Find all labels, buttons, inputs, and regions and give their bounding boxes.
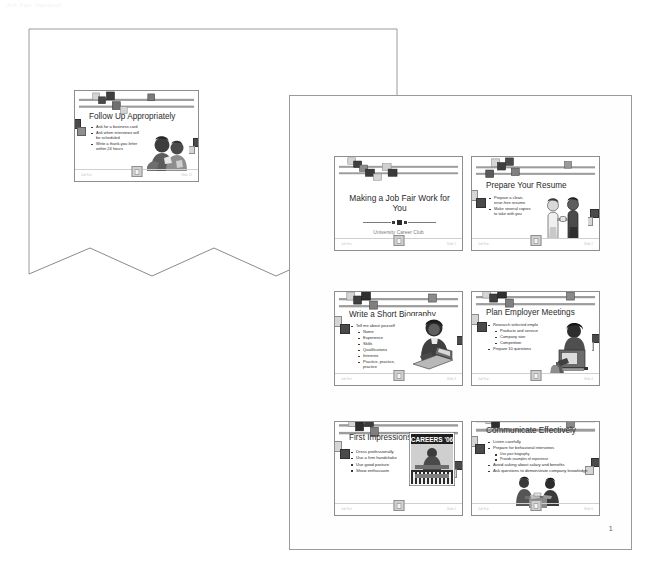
slide-number-badge (530, 370, 541, 381)
slide-thumbnail[interactable]: Making a Job Fair Work for You Universit… (334, 156, 463, 251)
bullet-item: Dress professionally (351, 449, 409, 454)
slide-bullets: Tell me about yourself Name Experience S… (351, 323, 407, 370)
bullet-item: Skills (358, 341, 407, 346)
slide-number-badge (131, 166, 142, 177)
slide-footer: Job Fair Slide 5 (335, 503, 462, 515)
clipart-woman-at-laptop (407, 316, 457, 372)
slide-decoration (75, 91, 198, 114)
bullet-item: Tell me about yourself (351, 323, 407, 328)
slide-thumbnail[interactable]: Write a Short Biography Tell me about yo… (334, 291, 463, 386)
bullet-item: Experience (358, 335, 407, 340)
svg-text:CAREERS '06: CAREERS '06 (411, 436, 454, 443)
footer-right-text: Slide 12 (181, 173, 192, 177)
slide-footer: Job Fair Slide 4 (472, 373, 599, 385)
bullet-item: Make several copies to take with you (489, 206, 533, 216)
front-handout-page: Making a Job Fair Work for You Universit… (289, 95, 632, 550)
footer-left-text: Job Fair (478, 507, 489, 511)
bullet-item: Use a firm handshake (351, 455, 409, 460)
footer-right-text: Slide 6 (584, 507, 593, 511)
slide-thumbnail[interactable]: Follow Up Appropriately Ask for a busine… (74, 90, 199, 182)
slide-footer: Job Fair Slide 1 (335, 238, 462, 250)
slide-title: Communicate Effectively (486, 426, 576, 435)
footer-right-text: Slide 3 (447, 377, 456, 381)
page-number: 1 (609, 524, 613, 533)
slide-bullets: Ask for a business card Ask when intervi… (91, 124, 143, 152)
bullet-item: Prepare a clean, error-free resume (489, 195, 533, 205)
bullet-item: Use good posture (351, 462, 409, 467)
bullet-item: Interests (358, 353, 407, 358)
footer-left-text: Job Fair (341, 377, 352, 381)
clipart-handshake-two-people (536, 189, 588, 239)
bullet-item: Avoid asking about salary and benefits (488, 462, 588, 467)
decorative-square (476, 198, 486, 208)
bullet-item: Provide examples of experience (495, 457, 588, 461)
slide-title: Follow Up Appropriately (89, 112, 175, 121)
bullet-item: Ask for a business card (91, 124, 143, 129)
slide-number-badge (393, 500, 404, 511)
footer-right-text: Slide 4 (584, 377, 593, 381)
bullet-item: Use your biography (495, 452, 588, 456)
footer-left-text: Job Fair (478, 242, 489, 246)
title-divider-rule (363, 219, 436, 225)
footer-right-text: Slide 1 (447, 242, 456, 246)
footer-left-text: Job Fair (81, 173, 92, 177)
slide-number-badge (530, 500, 541, 511)
footer-left-text: Job Fair (478, 377, 489, 381)
bullet-item: Ask when interviews will be scheduled (91, 130, 143, 140)
slide-footer: Job Fair Slide 12 (75, 169, 198, 181)
bullet-item: Practice, practice, practice (358, 359, 407, 369)
slide-number-badge (393, 370, 404, 381)
slide-footer: Job Fair Slide 3 (335, 373, 462, 385)
slide-thumbnail[interactable]: Plan Employer Meetings Research selected… (471, 291, 600, 386)
decorative-square (340, 449, 350, 459)
clipart-job-fair-booth-sign: CAREERS '06 (409, 432, 455, 486)
bullet-item: Write a thank-you letter within 24 hours (91, 141, 143, 151)
clipart-two-men-talking (143, 127, 189, 171)
slide-bullets: Prepare a clean, error-free resume Make … (489, 195, 533, 217)
slide-footer: Job Fair Slide 6 (472, 503, 599, 515)
footer-right-text: Slide 2 (584, 242, 593, 246)
slide-footer: Job Fair Slide 2 (472, 238, 599, 250)
bullet-item: Prepare for behavioral interviews (488, 445, 588, 450)
decorative-square (77, 127, 86, 136)
slide-decoration (472, 157, 599, 181)
bullet-item: Listen carefully (488, 439, 588, 444)
decorative-square (340, 324, 350, 334)
slide-title: First Impressions (349, 433, 411, 442)
slide-bullets: Dress professionally Use a firm handshak… (351, 449, 409, 474)
footer-right-text: Slide 5 (447, 507, 456, 511)
bullet-item: Name (358, 329, 407, 334)
scan-artifact-text: Job Fair Handout (6, 2, 62, 8)
slide-thumbnail[interactable]: Prepare Your Resume Prepare a clean, err… (471, 156, 600, 251)
presentation-title: Making a Job Fair Work for You (345, 194, 454, 213)
decorative-square (477, 322, 487, 332)
slide-title: Plan Employer Meetings (486, 308, 575, 317)
decorative-square (475, 444, 485, 454)
slide-number-badge (393, 235, 404, 246)
footer-left-text: Job Fair (341, 507, 352, 511)
slide-bullets: Listen carefully Prepare for behavioral … (488, 439, 588, 475)
bullet-item: Show enthusiasm (351, 468, 409, 473)
slide-thumbnail[interactable]: Communicate Effectively Listen carefully… (471, 421, 600, 516)
slide-number-badge (530, 235, 541, 246)
slide-thumbnail[interactable]: First Impressions Dress professionally U… (334, 421, 463, 516)
bullet-item: Ask questions to demonstrate company kno… (488, 468, 588, 473)
footer-left-text: Job Fair (341, 242, 352, 246)
bullet-item: Qualifications (358, 347, 407, 352)
scanned-handout-page: Job Fair Handout (0, 0, 653, 580)
clipart-person-at-desk-computer (538, 318, 592, 374)
slide-decoration (335, 157, 462, 181)
